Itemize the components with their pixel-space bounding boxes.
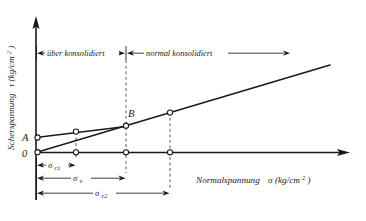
shear-stress-diagram: Scherspannung τ (kg/cm 2 ) Normalspannun… <box>0 0 366 221</box>
dimension-sigma-c2-subscript: c2 <box>101 192 107 199</box>
region-normal-right-arrowhead <box>283 51 290 56</box>
dimension-sigma-c1-subscript: c1 <box>54 164 60 171</box>
marker-sigma-c2-on-envelope <box>167 110 172 115</box>
y-axis-label-symbol: τ <box>6 83 16 87</box>
y-axis-label-text: Scherspannung <box>6 93 16 150</box>
normally-consolidated-envelope-line <box>36 65 330 153</box>
figure-root: Scherspannung τ (kg/cm 2 ) Normalspannun… <box>0 0 366 221</box>
marker-sigma-c1-on-envelope <box>73 129 78 134</box>
svg-text:Normalspannung σ: Normalspannung σ (kg/cm 2 ) <box>195 172 311 185</box>
x-axis-label-text: Normalspannung <box>195 175 260 185</box>
y-axis-label-unit-exponent: 2 <box>6 51 12 54</box>
y-axis-label-unit-close: ) <box>6 46 16 50</box>
x-axis-label-unit-close: ) <box>307 175 311 185</box>
svg-text:Scherspannung τ: Scherspannung τ (kg/cm 2 ) <box>3 46 16 150</box>
failure-envelopes <box>36 65 330 153</box>
x-axis-label-unit-open: (kg/cm <box>275 175 300 185</box>
y-axis-label-unit-open: (kg/cm <box>6 56 16 81</box>
marker-point-A <box>35 135 40 140</box>
y-axis-label: Scherspannung τ (kg/cm 2 ) <box>3 46 16 150</box>
dimension-sigma-c1: σ c1 <box>37 158 76 173</box>
x-axis-label-unit-exponent: 2 <box>302 175 305 181</box>
marker-origin <box>35 150 40 155</box>
marker-sigma-v-on-axis <box>123 150 128 155</box>
region-annotation-bar: über konsolidiert normal konsolidiert <box>37 46 291 61</box>
dimension-sigma-v: σ v <box>37 171 126 186</box>
x-axis-label: Normalspannung σ (kg/cm 2 ) <box>195 172 311 185</box>
marker-sigma-c2-on-axis <box>167 150 172 155</box>
overconsolidated-envelope-line <box>36 127 126 138</box>
point-label-A: A <box>21 132 29 143</box>
dimension-sigma-c1-symbol: σ <box>48 160 53 170</box>
region-normal-label: normal konsolidiert <box>146 49 213 58</box>
projection-lines <box>76 60 170 188</box>
marker-sigma-c1-on-axis <box>73 150 78 155</box>
dimension-sigma-c2: σ c2 <box>37 186 170 201</box>
marker-point-B <box>123 123 128 128</box>
dimension-sigma-v-subscript: v <box>79 177 82 184</box>
region-overconsolidated-label: über konsolidiert <box>47 49 105 58</box>
x-axis-label-symbol: σ <box>268 175 273 185</box>
dimension-sigma-c2-symbol: σ <box>95 188 100 198</box>
origin-label: 0 <box>22 148 28 159</box>
dimension-sigma-v-symbol: σ <box>73 173 78 183</box>
point-label-B: B <box>128 108 135 119</box>
